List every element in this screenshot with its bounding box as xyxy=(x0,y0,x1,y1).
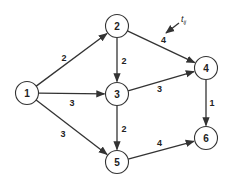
edge-weight-2-3: 2 xyxy=(121,56,126,66)
annotation-arrow xyxy=(166,23,179,33)
node-label: 6 xyxy=(203,133,209,144)
node-label: 5 xyxy=(114,157,120,168)
tij-annotation: tij xyxy=(166,14,187,33)
node-3: 3 xyxy=(106,83,129,106)
edge-weight-1-2: 2 xyxy=(61,53,66,63)
edge-1-2 xyxy=(36,33,107,86)
node-4: 4 xyxy=(195,57,218,80)
node-label: 1 xyxy=(24,88,30,99)
node-6: 6 xyxy=(195,127,218,150)
edge-weight-5-6: 4 xyxy=(157,138,162,148)
edge-1-3 xyxy=(38,93,104,94)
network-diagram: 233243214 123456 tij xyxy=(0,0,229,188)
edge-weight-4-6: 1 xyxy=(209,98,214,108)
node-label: 3 xyxy=(114,89,120,100)
edge-weight-2-4: 4 xyxy=(161,35,166,45)
node-2: 2 xyxy=(106,15,129,38)
edge-weight-1-5: 3 xyxy=(60,129,65,139)
edge-weight-1-3: 3 xyxy=(69,98,74,108)
annotation-label: tij xyxy=(181,14,187,25)
node-5: 5 xyxy=(106,151,129,174)
node-label: 2 xyxy=(114,21,120,32)
edge-1-5 xyxy=(36,100,107,154)
node-label: 4 xyxy=(203,63,209,74)
edge-weight-3-5: 2 xyxy=(121,124,126,134)
node-1: 1 xyxy=(16,82,39,105)
edge-weight-3-4: 3 xyxy=(157,84,162,94)
